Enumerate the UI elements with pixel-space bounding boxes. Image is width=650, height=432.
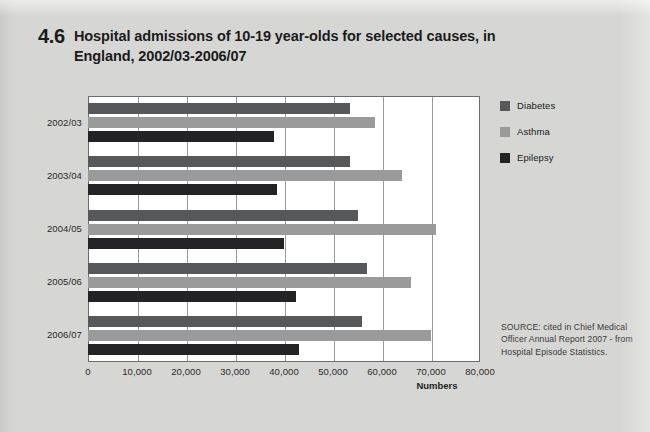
x-tick-label-10000: 10,000: [122, 366, 152, 377]
bar-asthma-2006-07[interactable]: [88, 330, 431, 341]
bar-diabetes-2005-06[interactable]: [88, 263, 367, 274]
y-tick-label-2006-07: 2006/07: [47, 329, 82, 340]
page-title: Hospital admissions of 10-19 year-olds f…: [74, 26, 504, 66]
chart-legend: DiabetesAsthmaEpilepsy: [500, 100, 630, 178]
bar-group: [88, 156, 480, 195]
legend-label: Diabetes: [517, 100, 555, 111]
bar-group: [88, 103, 480, 142]
bar-epilepsy-2004-05[interactable]: [88, 238, 284, 249]
bar-asthma-2005-06[interactable]: [88, 277, 411, 288]
x-tick-label-20000: 20,000: [171, 366, 201, 377]
legend-item-diabetes[interactable]: Diabetes: [500, 100, 630, 111]
bar-diabetes-2002-03[interactable]: [88, 103, 350, 114]
legend-label: Epilepsy: [517, 152, 554, 163]
bar-asthma-2004-05[interactable]: [88, 224, 436, 235]
x-tick-label-30000: 30,000: [220, 366, 250, 377]
legend-swatch-epilepsy-icon: [500, 153, 510, 163]
legend-swatch-asthma-icon: [500, 127, 510, 137]
figure-number: 4.6: [38, 26, 65, 46]
chart-plot-area: [88, 96, 480, 362]
y-tick-label-2005-06: 2005/06: [47, 276, 82, 287]
source-note: SOURCE: cited in Chief Medical Officer A…: [501, 321, 639, 358]
x-tick-label-60000: 60,000: [367, 366, 397, 377]
bar-group: [88, 316, 480, 355]
x-tick-label-80000: 80,000: [465, 366, 495, 377]
x-tick-label-50000: 50,000: [318, 366, 348, 377]
legend-label: Asthma: [517, 126, 550, 137]
bar-group: [88, 210, 480, 249]
legend-item-asthma[interactable]: Asthma: [500, 126, 630, 137]
bar-epilepsy-2002-03[interactable]: [88, 131, 274, 142]
bar-asthma-2003-04[interactable]: [88, 170, 402, 181]
legend-swatch-diabetes-icon: [500, 101, 510, 111]
x-axis: 010,00020,00030,00040,00050,00060,00070,…: [88, 366, 480, 380]
x-tick-label-0: 0: [85, 366, 90, 377]
bar-epilepsy-2006-07[interactable]: [88, 344, 299, 355]
bar-diabetes-2006-07[interactable]: [88, 316, 362, 327]
bar-series-container: [88, 96, 480, 362]
bar-epilepsy-2003-04[interactable]: [88, 184, 277, 195]
y-axis: 2002/032003/042004/052005/062006/07: [30, 96, 82, 362]
bar-group: [88, 263, 480, 302]
x-tick-label-70000: 70,000: [416, 366, 446, 377]
figure-page: 4.6 Hospital admissions of 10-19 year-ol…: [0, 0, 650, 432]
x-tick-label-40000: 40,000: [269, 366, 299, 377]
bar-diabetes-2004-05[interactable]: [88, 210, 358, 221]
bar-asthma-2002-03[interactable]: [88, 117, 375, 128]
x-axis-title: Numbers: [416, 380, 457, 391]
y-tick-label-2004-05: 2004/05: [47, 223, 82, 234]
legend-item-epilepsy[interactable]: Epilepsy: [500, 152, 630, 163]
y-tick-label-2002-03: 2002/03: [47, 117, 82, 128]
bar-epilepsy-2005-06[interactable]: [88, 291, 296, 302]
y-tick-label-2003-04: 2003/04: [47, 170, 82, 181]
bar-diabetes-2003-04[interactable]: [88, 156, 350, 167]
figure-heading: 4.6 Hospital admissions of 10-19 year-ol…: [38, 26, 538, 66]
